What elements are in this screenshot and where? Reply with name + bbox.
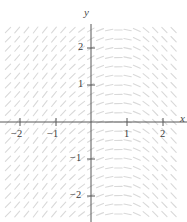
slope-mark xyxy=(153,175,158,180)
slope-mark xyxy=(70,202,75,207)
x-tick-label: 1 xyxy=(124,128,129,139)
slope-mark xyxy=(24,202,29,208)
slope-mark xyxy=(133,148,140,151)
slope-mark xyxy=(143,147,149,152)
slope-mark xyxy=(15,36,20,42)
slope-mark xyxy=(15,156,20,162)
slope-mark xyxy=(33,147,38,153)
slope-mark xyxy=(15,101,20,107)
slope-mark xyxy=(106,167,113,169)
slope-mark xyxy=(153,73,158,78)
slope-mark xyxy=(70,27,75,32)
slope-mark xyxy=(52,110,57,116)
slope-mark xyxy=(79,129,85,134)
slope-mark xyxy=(24,55,29,61)
slope-mark xyxy=(124,149,131,150)
slope-mark xyxy=(162,37,167,42)
slope-mark xyxy=(52,147,57,153)
slope-mark xyxy=(162,64,167,69)
slope-mark xyxy=(52,193,57,199)
slope-mark xyxy=(79,101,85,106)
slope-mark xyxy=(33,156,38,162)
slope-mark xyxy=(70,46,75,51)
slope-mark xyxy=(33,174,38,180)
slope-mark xyxy=(97,194,104,197)
slope-mark xyxy=(133,102,140,105)
slope-mark xyxy=(124,29,131,31)
slope-mark xyxy=(70,83,75,88)
slope-mark xyxy=(171,92,176,97)
slope-mark xyxy=(133,185,140,188)
slope-mark xyxy=(133,157,140,160)
slope-mark xyxy=(124,38,131,40)
slope-mark xyxy=(106,48,113,50)
slope-mark xyxy=(96,112,103,114)
slope-mark xyxy=(5,55,10,60)
slope-mark xyxy=(15,193,20,199)
slope-mark xyxy=(97,167,104,170)
slope-mark xyxy=(52,36,57,42)
slope-mark xyxy=(162,92,167,97)
slope-mark xyxy=(52,184,57,190)
slope-mark xyxy=(15,165,20,171)
slope-mark xyxy=(96,93,103,96)
slope-mark xyxy=(52,46,57,52)
slope-mark xyxy=(143,37,149,42)
slope-mark xyxy=(143,166,149,171)
slope-mark xyxy=(70,110,75,115)
slope-mark xyxy=(33,55,38,61)
slope-mark xyxy=(96,102,103,105)
slope-mark xyxy=(171,55,176,60)
slope-mark xyxy=(61,82,66,88)
slope-mark xyxy=(43,73,48,79)
slope-mark xyxy=(52,174,57,180)
slope-mark xyxy=(52,165,57,171)
slope-mark xyxy=(5,101,10,106)
slope-mark xyxy=(33,137,38,143)
x-tick-label: −2 xyxy=(11,128,22,139)
slope-mark xyxy=(106,29,113,31)
slope-mark xyxy=(70,101,75,106)
slope-mark xyxy=(33,45,38,51)
slope-mark xyxy=(79,111,85,116)
slope-mark xyxy=(124,84,131,85)
slope-mark xyxy=(61,174,66,180)
slope-mark xyxy=(24,183,29,189)
slope-mark xyxy=(33,73,38,79)
slope-mark xyxy=(61,36,66,42)
slope-mark xyxy=(97,65,104,68)
slope-mark xyxy=(106,158,113,160)
slope-mark xyxy=(61,211,66,217)
slope-mark xyxy=(133,130,140,133)
slope-mark xyxy=(153,46,158,51)
slope-mark xyxy=(15,82,20,88)
slope-mark xyxy=(79,65,85,70)
slope-mark xyxy=(171,83,176,88)
slope-mark xyxy=(70,175,75,180)
slope-mark xyxy=(171,46,176,51)
slope-mark xyxy=(15,184,20,190)
slope-mark xyxy=(43,110,48,116)
slope-mark xyxy=(33,64,38,70)
slope-mark xyxy=(171,37,176,42)
slope-mark xyxy=(24,211,29,217)
slope-mark xyxy=(171,202,176,207)
slope-mark xyxy=(15,73,20,79)
slope-mark xyxy=(162,55,167,60)
slope-mark xyxy=(61,110,66,116)
slope-mark xyxy=(143,156,149,161)
slope-mark xyxy=(24,27,29,33)
slope-mark xyxy=(133,56,140,59)
slope-mark xyxy=(153,64,158,69)
slope-mark xyxy=(171,175,176,180)
slope-mark xyxy=(143,111,149,115)
slope-mark xyxy=(153,202,158,207)
slope-mark xyxy=(43,183,48,189)
axes-group xyxy=(0,24,187,222)
slope-mark xyxy=(79,212,85,217)
slope-mark xyxy=(143,92,149,97)
slope-mark xyxy=(97,47,104,50)
slope-mark xyxy=(153,37,158,42)
slope-mark xyxy=(15,110,20,116)
slope-mark xyxy=(61,55,66,61)
